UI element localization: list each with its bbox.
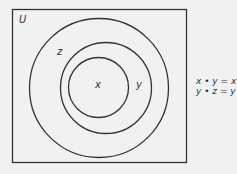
equation-1: x • y = x xyxy=(196,77,236,86)
set-z-label: z xyxy=(57,47,62,57)
set-y-label: y xyxy=(136,80,142,90)
set-x-label: x xyxy=(95,80,101,90)
equation-2: y • z = y xyxy=(196,87,236,96)
universe-label: U xyxy=(19,15,26,25)
